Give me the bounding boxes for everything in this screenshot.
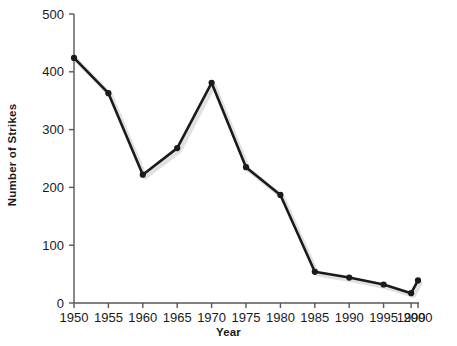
y-tick-label: 400 <box>42 64 64 79</box>
x-tick-label: 1985 <box>300 310 329 325</box>
x-axis-title: Year <box>0 326 457 338</box>
data-point <box>277 192 283 198</box>
y-tick-label: 200 <box>42 180 64 195</box>
y-tick-label: 500 <box>42 7 64 22</box>
chart-canvas: 0100200300400500 19501955196019651970197… <box>0 0 457 346</box>
x-tick-label: 1960 <box>128 310 157 325</box>
x-tick-label: 1995 <box>369 310 398 325</box>
data-point <box>71 55 77 61</box>
data-point <box>105 90 111 96</box>
y-tick-label: 100 <box>42 238 64 253</box>
data-point <box>346 274 352 280</box>
line-chart: 0100200300400500 19501955196019651970197… <box>0 0 457 346</box>
x-tick-label: 2000 <box>404 310 433 325</box>
data-point <box>381 281 387 287</box>
x-tick-label: 1970 <box>197 310 226 325</box>
data-point <box>174 145 180 151</box>
y-tick-label: 0 <box>57 296 64 311</box>
x-tick-label: 1975 <box>232 310 261 325</box>
data-point <box>408 290 414 296</box>
data-point <box>243 164 249 170</box>
y-axis: 0100200300400500 <box>42 7 74 311</box>
data-series <box>71 55 421 296</box>
series-line <box>74 58 418 293</box>
x-tick-label: 1955 <box>94 310 123 325</box>
x-tick-label: 1950 <box>60 310 89 325</box>
x-tick-label: 1965 <box>163 310 192 325</box>
data-point <box>209 80 215 86</box>
x-tick-label: 1990 <box>335 310 364 325</box>
y-tick-label: 300 <box>42 122 64 137</box>
data-point <box>415 277 421 283</box>
data-point <box>312 269 318 275</box>
x-axis: 1950195519601965197019751980198519901995… <box>60 303 433 325</box>
x-tick-label: 1980 <box>266 310 295 325</box>
data-point <box>140 172 146 178</box>
series-line-shadow <box>77 60 421 295</box>
